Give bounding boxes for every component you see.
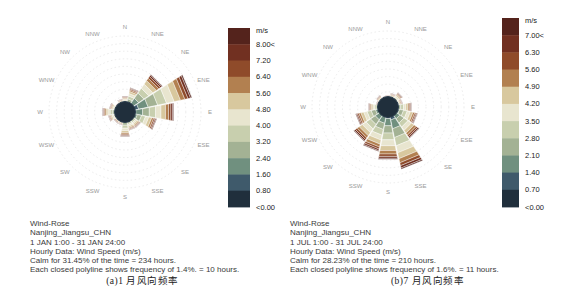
compass-label-nne: NNE	[151, 31, 164, 37]
petal-band-s	[382, 133, 394, 140]
legend-color-cell	[502, 70, 519, 88]
petal-band-s	[379, 151, 396, 155]
legend-value-label: 5.60	[525, 65, 540, 74]
info-line: Nanjing_Jiangsu_CHN	[290, 228, 499, 237]
info-block-january: Wind-RoseNanjing_Jiangsu_CHN1 JAN 1:00 -…	[30, 219, 239, 275]
compass-label-ssw: SSW	[86, 188, 100, 194]
petal-band-s	[379, 154, 397, 156]
petal-band-s	[378, 158, 397, 159]
legend-color-cell	[228, 142, 250, 159]
legend-value-label: 2.40	[256, 154, 271, 163]
compass-label-ene: ENE	[460, 72, 472, 78]
petal-band-w	[373, 104, 375, 110]
compass-label-ssw: SSW	[349, 183, 363, 189]
petal-band-e	[401, 104, 404, 110]
petal-band-e	[166, 104, 169, 120]
petal-band-e	[156, 105, 161, 118]
petal-band-e	[173, 103, 174, 121]
compass-label-nnw: NNW	[85, 31, 100, 37]
legend-color-cell	[228, 77, 250, 94]
petal-band-w	[375, 105, 377, 110]
legend-color-cell	[502, 138, 519, 156]
petal-band-e	[406, 103, 408, 110]
legend-value-label: 3.50	[525, 117, 540, 126]
compass-label-w: W	[300, 104, 306, 110]
petal-band-n	[123, 100, 128, 101]
petal-band-s	[385, 118, 392, 125]
legend-value-label: 3.20	[256, 137, 271, 146]
petal-band-w	[108, 109, 110, 115]
compass-label-nnw: NNW	[348, 26, 363, 32]
compass-label-w: W	[37, 109, 43, 115]
panel-caption-january: (a)1 月风向频率	[0, 273, 285, 287]
petal-band-e	[149, 106, 155, 117]
legend-value-label: <0.00	[256, 203, 275, 212]
legend-value-label: 2.80	[525, 134, 540, 143]
petal-band-s	[381, 140, 395, 146]
legend-value-label: 0.70	[525, 185, 540, 194]
legend-color-cell	[502, 18, 519, 36]
legend-color-cell	[228, 93, 250, 110]
compass-label-wnw: WNW	[39, 77, 55, 83]
petal-band-s	[121, 133, 129, 134]
petal-band-s	[379, 156, 398, 158]
legend-value-label: 6.40	[256, 72, 271, 81]
compass-label-ese: ESE	[460, 137, 472, 143]
legend-value-label: 4.20	[525, 99, 540, 108]
petal-band-e	[171, 103, 173, 121]
compass-label-se: SE	[444, 164, 452, 170]
petal-band-e	[143, 108, 150, 117]
legend-value-label: 4.00	[256, 121, 271, 130]
legend-color-cell	[502, 87, 519, 105]
legend-value-label: 5.60	[256, 89, 271, 98]
petal-band-s	[120, 136, 129, 137]
wind-rose-chart-january: NNNENEENEEESESESSESSSWSWWSWWWNWNWNNWm/s8…	[0, 0, 285, 215]
legend-color-cell	[502, 156, 519, 174]
compass-label-wnw: WNW	[302, 72, 318, 78]
legend-color-cell	[228, 126, 250, 143]
legend-unit-label: m/s	[256, 26, 268, 35]
petal-band-s	[122, 125, 128, 128]
compass-label-ne: NE	[444, 44, 452, 50]
compass-label-ese: ESE	[197, 142, 209, 148]
legend-color-cell	[228, 109, 250, 126]
petal-band-e	[161, 105, 166, 120]
compass-label-e: E	[208, 109, 212, 115]
compass-label-nne: NNE	[414, 26, 427, 32]
compass-label-sw: SW	[60, 169, 70, 175]
compass-label-nw: NW	[323, 44, 333, 50]
compass-label-sse: SSE	[151, 188, 163, 194]
legend-color-cell	[228, 175, 250, 192]
petal-band-w	[371, 104, 373, 110]
wind-rose-panel-july: NNNENEENEEESESESSESSSWSWWSWWWNWNWNNWm/s7…	[285, 0, 570, 300]
petal-band-e	[404, 104, 406, 111]
compass-label-ne: NE	[181, 49, 189, 55]
legend-color-cell	[502, 52, 519, 70]
info-block-july: Wind-RoseNanjing_Jiangsu_CHN1 JUL 1:00 -…	[290, 219, 499, 275]
legend-color-cell	[502, 104, 519, 122]
legend-value-label: 1.40	[525, 168, 540, 177]
info-line: Hourly Data: Wind Speed (m/s)	[290, 247, 499, 256]
petal-band-e	[408, 103, 409, 111]
compass-label-se: SE	[181, 169, 189, 175]
info-line: Wind-Rose	[30, 219, 239, 228]
compass-label-s: S	[123, 194, 127, 200]
compass-label-e: E	[471, 104, 475, 110]
info-line: Calm for 31.45% of the time = 234 hours.	[30, 256, 239, 265]
legend-color-cell	[228, 28, 250, 45]
legend-color-cell	[228, 44, 250, 61]
petal-band-s	[122, 128, 129, 131]
legend-color-cell	[502, 121, 519, 139]
info-line: Wind-Rose	[290, 219, 499, 228]
info-line: 1 JAN 1:00 - 31 JAN 24:00	[30, 238, 239, 247]
legend-color-cell	[502, 35, 519, 53]
petal-band-w	[106, 109, 108, 116]
panel-caption-july: (b)7 月风向频率	[285, 273, 570, 287]
wind-rose-chart-july: NNNENEENEEESESESSESSSWSWWSWWWNWNWNNWm/s7…	[285, 0, 570, 215]
legend-value-label: 8.00<	[256, 40, 276, 49]
info-line: 1 JUL 1:00 - 31 JUL 24:00	[290, 238, 499, 247]
info-line: Nanjing_Jiangsu_CHN	[30, 228, 239, 237]
compass-label-s: S	[386, 189, 390, 195]
wind-rose-panel-january: NNNENEENEEESESESSESSSWSWWSWWWNWNWNNWm/s8…	[0, 0, 285, 300]
info-line: Hourly Data: Wind Speed (m/s)	[30, 247, 239, 256]
